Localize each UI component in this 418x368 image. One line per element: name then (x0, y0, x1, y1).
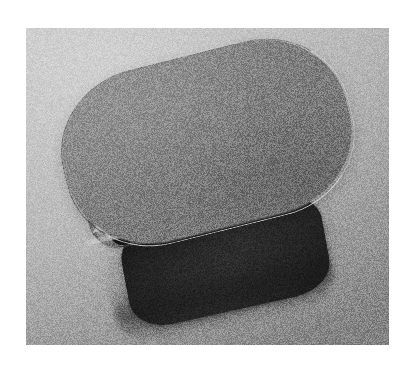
page-root (0, 0, 418, 368)
render-canvas (26, 28, 389, 345)
object-group (26, 28, 389, 345)
